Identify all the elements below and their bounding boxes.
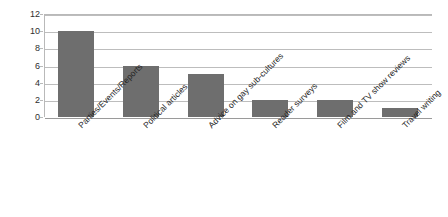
y-tick-label: 2 [4,95,40,104]
x-label-slot: Travel writing [367,117,432,217]
x-axis-labels: Parties/Events/ReportsPolitical articles… [44,117,432,217]
y-tick-mark [40,14,43,15]
y-tick-label: 10 [4,27,40,36]
bar-chart: 024681012 Parties/Events/ReportsPolitica… [0,0,448,217]
x-label-slot: Reader surveys [238,117,303,217]
x-label-slot: Film and TV show reviews [303,117,368,217]
y-tick-mark [40,117,43,118]
y-tick-label: 8 [4,44,40,53]
y-tick-label: 0 [4,113,40,122]
y-tick-label: 6 [4,61,40,70]
y-tick-label: 4 [4,78,40,87]
y-tick-mark [40,66,43,67]
x-label-slot: Political articles [109,117,174,217]
y-axis: 024681012 [0,14,40,117]
bar [58,31,94,117]
y-tick-mark [40,48,43,49]
y-tick-label: 12 [4,10,40,19]
y-tick-mark [40,100,43,101]
x-label-slot: Parties/Events/Reports [44,117,109,217]
x-label-slot: Advice on gay sub-cultures [173,117,238,217]
y-tick-mark [40,31,43,32]
y-tick-mark [40,83,43,84]
